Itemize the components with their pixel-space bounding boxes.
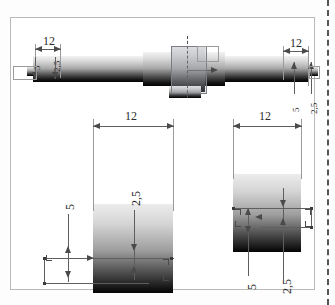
bl-handle-bottom-left[interactable] <box>43 282 46 285</box>
dim-arrow-bl-12-right-icon <box>167 123 174 129</box>
br-corner-mark-d <box>305 221 311 227</box>
dim-label-bl-5[interactable]: 5 <box>64 204 76 210</box>
drawing-canvas[interactable]: 12 5 2,5 12 5 2,5 <box>0 0 335 305</box>
dim-label-br-5[interactable]: 5 <box>246 284 258 290</box>
drawing-sheet[interactable]: 12 5 2,5 12 5 2,5 <box>10 17 315 290</box>
bl-constraint-bottom-line <box>44 283 149 284</box>
bl-axis-arrow-icon <box>87 255 94 261</box>
dim-arrow-topright-12-left-icon <box>283 48 290 54</box>
br-constraint-top-line <box>233 208 312 209</box>
dim-label-br-12[interactable]: 12 <box>259 110 271 122</box>
br-corner-mark-c <box>305 209 311 215</box>
dim-arrow-bl-12-left-icon <box>93 123 100 129</box>
dim-label-br-2-5[interactable]: 2,5 <box>281 279 293 294</box>
dim-arrow-topright-12-right-icon <box>302 48 309 54</box>
bl-handle-top-right[interactable] <box>170 257 173 260</box>
dim-arrow-br-2-5-bottom-icon <box>280 218 286 225</box>
dim-arrow-bl-5-down-icon <box>65 271 71 278</box>
shaft-mid-left-section[interactable] <box>143 52 171 86</box>
dim-arrow-br-5-down-icon <box>245 226 251 233</box>
shaft-axis-arrow-icon <box>211 67 218 73</box>
dim-label-topright-12[interactable]: 12 <box>290 37 302 49</box>
br-axis-arrow-icon <box>255 214 262 220</box>
dim-arrow-br-2-5-top-icon <box>280 200 286 207</box>
br-corner-mark-a <box>235 209 241 215</box>
dim-label-topleft-12[interactable]: 12 <box>43 35 55 47</box>
dim-arrow-bl-2-5-top-icon <box>131 244 137 251</box>
dim-arrow-topleft-12-right-icon <box>54 46 61 52</box>
ext-line-bl-a <box>93 119 94 211</box>
dim-label-bl-12[interactable]: 12 <box>125 110 137 122</box>
collar-selection-outline[interactable] <box>197 46 219 62</box>
dim-arrow-topleft-12-left-icon <box>35 46 42 52</box>
dim-label-topright-5[interactable]: 5 <box>292 108 301 113</box>
bl-constraint-top-line <box>44 258 174 259</box>
shaft-right-thin-section[interactable] <box>225 56 309 82</box>
dim-arrow-br-5-up-icon <box>245 208 251 215</box>
dim-arrow-topright-5-icon <box>291 62 297 69</box>
right-detail-block[interactable] <box>233 174 301 252</box>
br-constraint-bottom-line <box>261 227 312 228</box>
dim-label-bl-2-5[interactable]: 2,5 <box>130 191 142 206</box>
dim-arrow-br-12-left-icon <box>233 123 240 129</box>
crop-selection-marker[interactable] <box>327 0 329 305</box>
dim-arrow-br-12-right-icon <box>295 123 302 129</box>
bl-corner-mark-b <box>163 259 169 265</box>
dim-arrow-topleft-2-5-icon <box>52 72 58 79</box>
right-origin-reference-box[interactable] <box>309 66 320 79</box>
shaft-left-thin-section[interactable] <box>33 56 143 82</box>
bl-constraint-left-line <box>44 258 45 284</box>
br-corner-mark-b <box>235 221 241 227</box>
br-constraint-right-line <box>311 208 312 228</box>
dim-line-br-12[interactable] <box>233 126 302 127</box>
dim-label-topright-2-5[interactable]: 2,5 <box>310 103 319 114</box>
dim-line-br-5[interactable] <box>248 208 249 276</box>
dim-arrow-bl-2-5-bottom-icon <box>131 266 137 273</box>
left-origin-reference-box[interactable] <box>13 66 37 80</box>
dim-arrow-bl-5-up-icon <box>65 246 71 253</box>
bl-corner-mark-a <box>46 255 52 261</box>
dim-line-bl-12[interactable] <box>93 126 174 127</box>
ext-line-bl-b <box>173 119 174 211</box>
bl-corner-mark-c <box>163 275 169 281</box>
